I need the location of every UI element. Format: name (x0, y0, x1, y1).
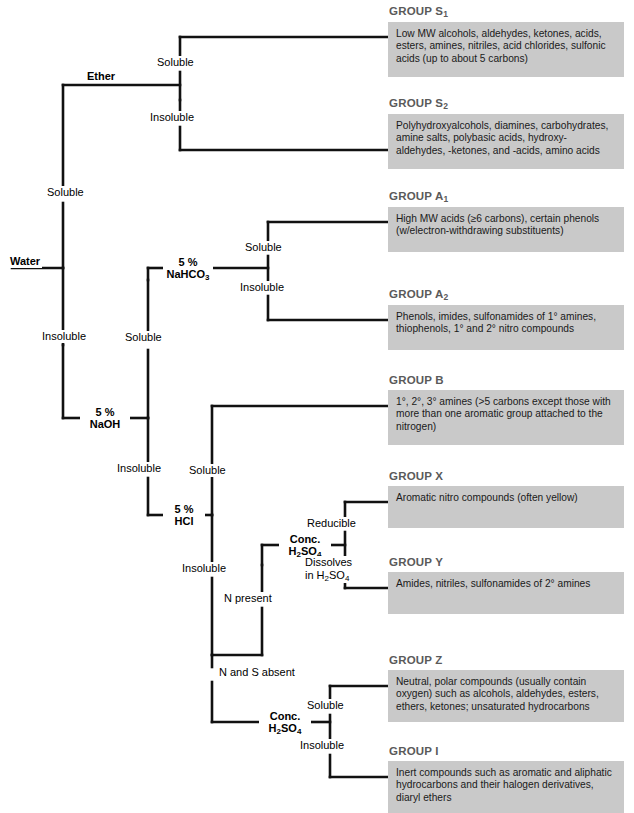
h2so4-upper-h: H (289, 545, 297, 557)
group-title-x: GROUP X (389, 470, 624, 483)
group-box-a2: GROUP A2 Phenols, imides, sulfonamides o… (388, 288, 624, 350)
branch-label-n-present: N present (222, 592, 274, 605)
group-title-b-text: GROUP B (389, 374, 444, 386)
nahco3-line1: 5 % (179, 256, 198, 268)
group-title-s2-text: GROUP S (389, 97, 443, 109)
nahco3-subscript: 3 (205, 273, 209, 282)
h2so4-upper-sub1: 2 (297, 550, 301, 559)
branch-label-water-soluble: Soluble (45, 186, 86, 199)
group-body-s2: Polyhydroxyalcohols, diamines, carbohydr… (388, 114, 624, 169)
group-body-y: Amides, nitriles, sulfonamides of 2° ami… (388, 572, 624, 614)
node-label-naoh: 5 % NaOH (80, 406, 130, 430)
h2so4-lower-h: H (269, 722, 277, 734)
branch-label-ether-insoluble: Insoluble (148, 111, 196, 124)
h2so4-lower-so: SO (281, 722, 297, 734)
hcl-line2: HCl (175, 515, 194, 527)
dissolves-so: SO (329, 569, 345, 581)
h2so4-lower-sub2: 4 (297, 727, 301, 736)
node-label-nahco3: 5 % NaHCO3 (163, 256, 213, 282)
group-title-s2-subscript: 2 (443, 101, 448, 111)
group-box-b: GROUP B 1°, 2°, 3° amines (>5 carbons ex… (388, 374, 624, 445)
group-title-x-text: GROUP X (389, 470, 443, 482)
naoh-line1: 5 % (96, 406, 115, 418)
branch-label-naoh-soluble: Soluble (123, 331, 164, 344)
h2so4-lower-line1: Conc. (270, 710, 301, 722)
dissolves-sub2: 4 (345, 574, 349, 583)
branch-label-nahco3-soluble: Soluble (243, 241, 284, 254)
group-box-i: GROUP I Inert compounds such as aromatic… (388, 745, 624, 813)
branch-label-n-and-s-absent: N and S absent (217, 666, 297, 679)
group-box-z: GROUP Z Neutral, polar compounds (usuall… (388, 654, 624, 722)
group-title-z: GROUP Z (389, 654, 624, 667)
branch-label-z-soluble: Soluble (305, 699, 346, 712)
node-label-water: Water (8, 255, 42, 268)
group-title-a1-text: GROUP A (389, 190, 443, 202)
group-title-a1: GROUP A1 (389, 190, 624, 204)
group-title-i: GROUP I (389, 745, 624, 758)
group-title-s1-subscript: 1 (443, 9, 448, 19)
branch-label-dissolves: Dissolves in H2SO4 (303, 556, 354, 583)
group-body-b: 1°, 2°, 3° amines (>5 carbons except tho… (388, 390, 624, 445)
naoh-line2: NaOH (90, 418, 121, 430)
group-body-x: Aromatic nitro compounds (often yellow) (388, 486, 624, 528)
branch-label-naoh-insoluble: Insoluble (115, 462, 163, 475)
group-box-a1: GROUP A1 High MW acids (≥6 carbons), cer… (388, 190, 624, 252)
group-body-a1: High MW acids (≥6 carbons), certain phen… (388, 207, 624, 252)
group-box-s1: GROUP S1 Low MW alcohols, aldehydes, ket… (388, 5, 624, 77)
dissolves-in-h: in H (305, 569, 325, 581)
group-title-y: GROUP Y (389, 556, 624, 569)
group-body-i: Inert compounds such as aromatic and ali… (388, 761, 624, 813)
group-box-y: GROUP Y Amides, nitriles, sulfonamides o… (388, 556, 624, 614)
group-title-a2: GROUP A2 (389, 288, 624, 302)
group-title-i-text: GROUP I (389, 745, 439, 757)
group-title-z-text: GROUP Z (389, 654, 443, 666)
group-title-s1-text: GROUP S (389, 5, 443, 17)
group-title-a2-text: GROUP A (389, 288, 443, 300)
group-body-s1: Low MW alcohols, aldehydes, ketones, aci… (388, 22, 624, 77)
nahco3-line2: NaHCO (167, 268, 206, 280)
branch-label-ether-soluble: Soluble (155, 56, 196, 69)
group-title-a2-subscript: 2 (443, 292, 448, 302)
hcl-line1: 5 % (175, 503, 194, 515)
node-label-ether: Ether (85, 70, 117, 83)
branch-label-nahco3-insoluble: Insoluble (238, 281, 286, 294)
h2so4-lower-sub1: 2 (277, 727, 281, 736)
node-label-h2so4-lower: Conc. H2SO4 (259, 710, 311, 736)
branch-label-water-insoluble: Insoluble (40, 330, 88, 343)
branch-label-reducible: Reducible (305, 517, 358, 530)
branch-label-hcl-soluble: Soluble (187, 464, 228, 477)
h2so4-upper-line1: Conc. (290, 533, 321, 545)
group-title-b: GROUP B (389, 374, 624, 387)
group-title-a1-subscript: 1 (443, 194, 448, 204)
group-title-s2: GROUP S2 (389, 97, 624, 111)
dissolves-line1: Dissolves (305, 556, 352, 568)
dissolves-sub1: 2 (325, 574, 329, 583)
group-body-a2: Phenols, imides, sulfonamides of 1° amin… (388, 305, 624, 350)
group-box-x: GROUP X Aromatic nitro compounds (often … (388, 470, 624, 528)
branch-label-i-insoluble: Insoluble (298, 739, 346, 752)
branch-label-hcl-insoluble: Insoluble (180, 562, 228, 575)
group-title-y-text: GROUP Y (389, 556, 443, 568)
node-label-hcl: 5 % HCl (163, 503, 205, 527)
group-title-s1: GROUP S1 (389, 5, 624, 19)
group-box-s2: GROUP S2 Polyhydroxyalcohols, diamines, … (388, 97, 624, 169)
group-body-z: Neutral, polar compounds (usually contai… (388, 670, 624, 722)
